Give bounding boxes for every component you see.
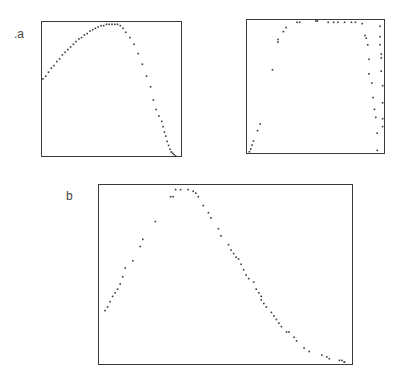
data-point [381, 57, 383, 59]
data-point [109, 301, 111, 303]
data-point [382, 85, 384, 87]
data-point [132, 260, 134, 262]
data-point [119, 283, 121, 285]
data-point [169, 149, 171, 151]
data-point [379, 26, 381, 28]
data-point [329, 358, 331, 360]
data-point [315, 20, 317, 22]
data-point [333, 22, 335, 24]
data-point [142, 63, 144, 65]
data-point [62, 54, 64, 56]
data-point [92, 29, 94, 31]
data-point [351, 22, 353, 24]
data-point [303, 347, 305, 349]
data-point [125, 32, 127, 34]
data-point [375, 117, 377, 119]
data-point [150, 86, 152, 88]
data-point [45, 75, 47, 77]
data-point [67, 49, 69, 51]
plot-a-left [41, 21, 182, 157]
data-point [341, 360, 343, 362]
data-point [218, 228, 220, 230]
data-point [283, 31, 285, 33]
data-point [111, 24, 113, 26]
data-point [233, 253, 235, 255]
data-point [114, 24, 116, 26]
data-point [168, 145, 170, 147]
data-point [248, 278, 250, 280]
data-point [122, 276, 124, 278]
data-point [296, 340, 298, 342]
data-point [140, 246, 142, 248]
data-point [162, 126, 164, 128]
data-point [249, 151, 251, 153]
data-point [253, 140, 255, 142]
data-point [198, 196, 200, 198]
plot-b-points [99, 185, 352, 364]
data-point [273, 315, 275, 317]
data-point [89, 30, 91, 32]
data-point [53, 65, 55, 67]
data-point [379, 44, 381, 46]
data-point [129, 37, 131, 39]
data-point [261, 299, 263, 301]
data-point [42, 78, 44, 80]
data-point [376, 150, 378, 152]
data-point [382, 118, 384, 120]
data-point [95, 28, 97, 30]
data-point [344, 361, 346, 363]
data-point [382, 102, 384, 104]
data-point [133, 44, 135, 46]
data-point [56, 61, 58, 63]
data-point [251, 144, 253, 146]
data-point [158, 115, 160, 117]
data-point [164, 131, 166, 133]
data-point [220, 235, 222, 237]
data-point [317, 20, 319, 22]
data-point [245, 274, 247, 276]
data-point [175, 155, 177, 157]
data-point [172, 153, 174, 155]
data-point [97, 26, 99, 28]
plot-a-right [246, 19, 385, 154]
data-point [86, 33, 88, 35]
data-point [100, 25, 102, 27]
panel-label-b: b [66, 190, 73, 202]
data-point [175, 189, 177, 191]
data-point [187, 189, 189, 191]
data-point [255, 288, 257, 290]
data-point [243, 269, 245, 271]
data-point [192, 191, 194, 193]
data-point [104, 310, 106, 312]
data-point [339, 360, 341, 362]
data-point [171, 151, 173, 153]
data-point [59, 58, 61, 60]
plot-a-left-points [42, 22, 181, 156]
data-point [361, 23, 363, 25]
data-point [120, 25, 122, 27]
data-point [257, 130, 259, 132]
data-point [117, 288, 119, 290]
data-point [146, 75, 148, 77]
data-point [379, 36, 381, 38]
data-point [142, 239, 144, 241]
data-point [240, 264, 242, 266]
data-point [278, 322, 280, 324]
data-point [263, 303, 265, 305]
data-point [266, 306, 268, 308]
data-point [64, 52, 66, 54]
data-point [286, 331, 288, 333]
data-point [372, 97, 374, 99]
data-point [374, 109, 376, 111]
data-point [250, 148, 252, 150]
data-point [107, 306, 109, 308]
data-point [172, 196, 174, 198]
data-point [272, 69, 274, 71]
data-point [108, 24, 110, 26]
data-point [371, 82, 373, 84]
data-point [81, 37, 83, 39]
data-point [228, 244, 230, 246]
data-point [155, 109, 157, 111]
data-point [326, 356, 328, 358]
data-point [276, 319, 278, 321]
